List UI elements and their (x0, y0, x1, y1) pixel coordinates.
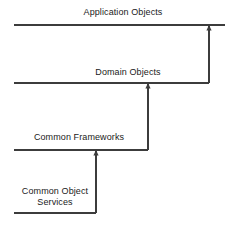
connector-group (93, 25, 211, 213)
layered-architecture-diagram: Application ObjectsDomain ObjectsCommon … (0, 0, 234, 226)
connector-arrowhead-services-to-frameworks (93, 150, 98, 156)
layer-label-common-object-services: Common Object Services (22, 186, 88, 207)
layer-label-common-frameworks: Common Frameworks (34, 132, 124, 143)
layer-label-domain-objects: Domain Objects (95, 67, 160, 78)
connector-arrowhead-domain-to-application (206, 25, 211, 31)
connector-arrowhead-frameworks-to-domain (145, 83, 150, 89)
layer-baseline-group (14, 25, 225, 213)
layer-label-application-objects: Application Objects (84, 7, 163, 18)
